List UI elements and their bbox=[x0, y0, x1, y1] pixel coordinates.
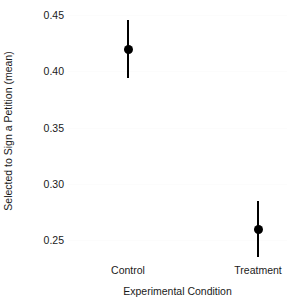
gridline-y-040 bbox=[68, 71, 287, 72]
y-tick-label: 0.25 bbox=[20, 235, 64, 246]
gridline-y-035 bbox=[68, 128, 287, 129]
data-point-control[interactable] bbox=[124, 45, 133, 54]
data-point-treatment[interactable] bbox=[254, 225, 263, 234]
x-tick-label-treatment: Treatment bbox=[203, 264, 289, 277]
gridline-y-030 bbox=[68, 184, 287, 185]
y-tick-label: 0.30 bbox=[20, 179, 64, 190]
gridline-y-025 bbox=[68, 240, 287, 241]
x-tick-label-control: Control bbox=[73, 264, 183, 277]
plot-panel bbox=[68, 6, 287, 260]
y-axis-title: Selected to Sign a Petition (mean) bbox=[0, 0, 16, 262]
chart-container: Selected to Sign a Petition (mean) 0.45 … bbox=[0, 0, 289, 304]
y-tick-label: 0.40 bbox=[20, 66, 64, 77]
y-tick-label: 0.35 bbox=[20, 123, 64, 134]
y-tick-label: 0.45 bbox=[20, 10, 64, 21]
gridline-y-045 bbox=[68, 15, 287, 16]
x-axis-title: Experimental Condition bbox=[68, 285, 287, 298]
x-axis-tick-labels: Control Treatment bbox=[68, 264, 287, 278]
y-axis-tick-labels: 0.45 0.40 0.35 0.30 0.25 bbox=[18, 0, 64, 304]
